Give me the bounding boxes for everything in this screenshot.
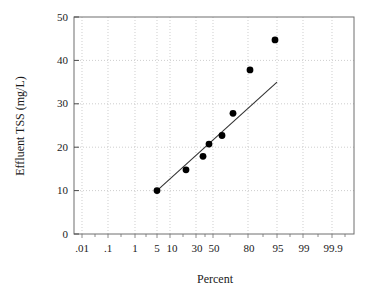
y-tick-label: 10 (57, 184, 69, 196)
x-tick-label: 80 (244, 242, 256, 254)
data-point (230, 110, 237, 117)
x-axis-tick-labels: .01 .1 1 5 10 30 50 80 95 99 99.9 (75, 242, 343, 254)
x-tick-label: 50 (209, 242, 221, 254)
data-point (183, 166, 190, 173)
x-tick-label: 95 (273, 242, 285, 254)
x-axis-title: Percent (197, 272, 234, 286)
y-tick-label: 40 (57, 54, 69, 66)
y-tick-label: 50 (57, 11, 69, 23)
data-point (206, 141, 213, 148)
x-tick-label: 5 (154, 242, 160, 254)
x-tick-label: 10 (167, 242, 179, 254)
x-axis-ticks (82, 234, 345, 238)
y-axis-title: Effluent TSS (mg/L) (13, 76, 27, 176)
data-point (247, 67, 254, 74)
x-tick-label: .1 (104, 242, 112, 254)
data-point (219, 132, 226, 139)
y-axis-tick-labels: 0 10 20 30 40 50 (57, 11, 69, 240)
x-tick-label: 99.9 (323, 242, 343, 254)
data-point (200, 153, 207, 160)
x-tick-label: .01 (75, 242, 89, 254)
x-tick-label: 30 (192, 242, 204, 254)
plot-area-background (74, 17, 354, 234)
chart-canvas: 0 10 20 30 40 50 .01 .1 1 5 10 30 50 80 … (0, 0, 371, 294)
y-tick-label: 30 (57, 97, 69, 109)
data-point (154, 187, 161, 194)
x-tick-label: 99 (299, 242, 311, 254)
x-tick-label: 1 (132, 242, 138, 254)
y-tick-label: 0 (63, 228, 69, 240)
probability-plot-figure: 0 10 20 30 40 50 .01 .1 1 5 10 30 50 80 … (0, 0, 371, 294)
data-point (272, 37, 279, 44)
y-tick-label: 20 (57, 141, 69, 153)
